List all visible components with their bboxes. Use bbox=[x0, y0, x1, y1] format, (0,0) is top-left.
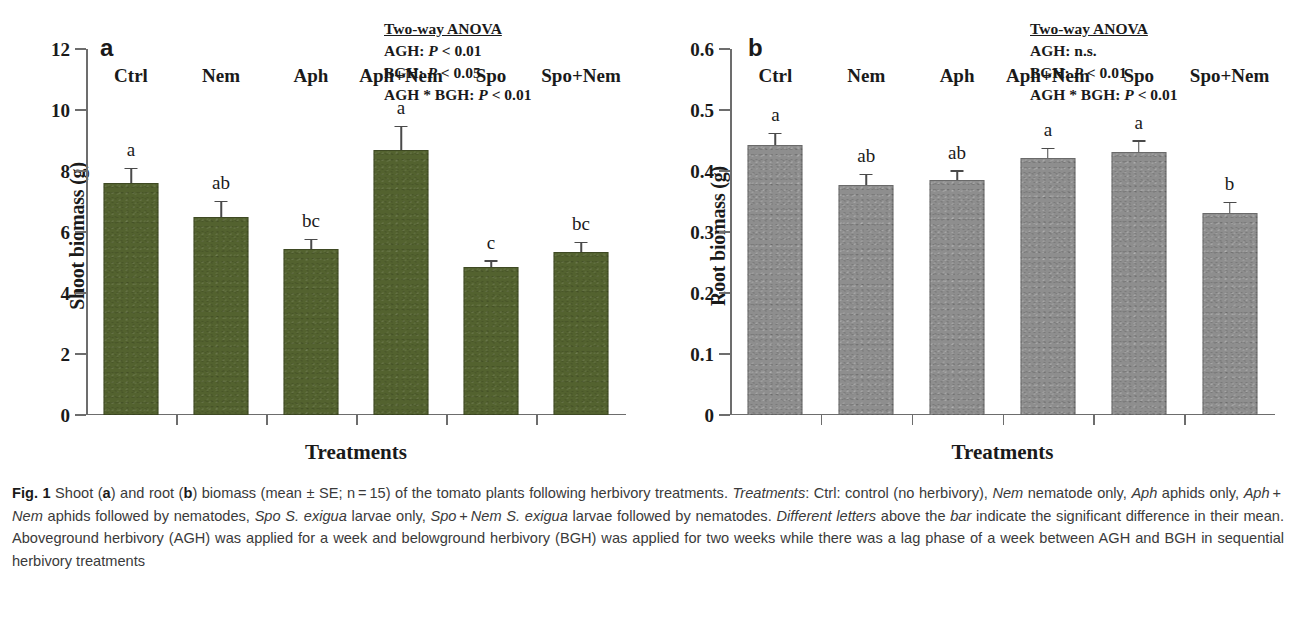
y-tick-label: 2 bbox=[61, 345, 71, 364]
x-tick-label-ctrl: Ctrl bbox=[114, 65, 148, 87]
y-tick-label: 0.1 bbox=[690, 345, 714, 364]
y-tick-mark: 0.6 bbox=[719, 48, 730, 50]
bar-slot: abNem bbox=[821, 49, 912, 415]
error-bar-cap bbox=[951, 170, 964, 172]
bar-ctrl bbox=[104, 183, 159, 415]
significance-letter: ab bbox=[948, 143, 966, 162]
x-tick-mark bbox=[266, 415, 268, 425]
x-tick-mark bbox=[1003, 415, 1005, 425]
error-bar bbox=[956, 172, 958, 181]
error-bar bbox=[220, 202, 222, 217]
error-bar-cap bbox=[485, 260, 498, 262]
y-tick-label: 6 bbox=[61, 223, 71, 242]
bar-slot: abNem bbox=[176, 49, 266, 415]
y-tick-label: 0 bbox=[705, 406, 715, 425]
bar-spo-nem bbox=[554, 252, 609, 415]
error-bar-cap bbox=[1041, 148, 1054, 150]
plot-area-a: 024681012 aCtrlabNembcAphaAph+NemcSpobcS… bbox=[86, 49, 626, 415]
bar-ctrl bbox=[748, 145, 803, 415]
y-tick-label: 4 bbox=[61, 284, 71, 303]
error-bar bbox=[310, 240, 312, 249]
bar-slot: bSpo+Nem bbox=[1184, 49, 1275, 415]
significance-letter: a bbox=[1044, 120, 1052, 139]
bar-aph bbox=[284, 249, 339, 415]
anova-header: Two-way ANOVA bbox=[1030, 18, 1177, 40]
x-tick-mark bbox=[446, 415, 448, 425]
error-bar bbox=[400, 127, 402, 149]
bar-aph bbox=[930, 180, 985, 415]
x-tick-label-aph-nem: Aph+Nem bbox=[359, 65, 443, 87]
plot-area-b: 00.10.20.30.40.50.6 aCtrlabNemabAphaAph+… bbox=[730, 49, 1275, 415]
x-tick-mark bbox=[912, 415, 914, 425]
x-tick-mark bbox=[821, 415, 823, 425]
error-bar bbox=[580, 243, 582, 252]
error-bar bbox=[130, 169, 132, 183]
x-tick-label-nem: Nem bbox=[847, 65, 885, 87]
bar-group: aCtrlabNembcAphaAph+NemcSpobcSpo+Nem bbox=[86, 49, 626, 415]
x-tick-mark bbox=[176, 415, 178, 425]
y-tick-mark: 0 bbox=[719, 414, 730, 416]
x-axis-title: Treatments bbox=[730, 440, 1275, 465]
figure-caption: Fig. 1 Shoot (a) and root (b) biomass (m… bbox=[12, 482, 1284, 572]
y-tick-label: 0.4 bbox=[690, 162, 714, 181]
bar-spo-nem bbox=[1202, 213, 1257, 415]
y-tick-label: 0.6 bbox=[690, 40, 714, 59]
error-bar-cap bbox=[125, 168, 138, 170]
bar-slot: aAph+Nem bbox=[1003, 49, 1094, 415]
bar-aph-nem bbox=[374, 150, 429, 415]
x-tick-mark bbox=[356, 415, 358, 425]
y-tick-mark: 0.1 bbox=[719, 353, 730, 355]
error-bar bbox=[490, 262, 492, 267]
x-tick-label-aph: Aph bbox=[940, 65, 975, 87]
figure-plot-area: Shoot biomass (g) a Two-way ANOVAAGH: P … bbox=[0, 0, 1295, 472]
y-tick-mark: 0 bbox=[75, 414, 86, 416]
x-tick-label-spo-nem: Spo+Nem bbox=[1190, 65, 1269, 87]
error-bar-cap bbox=[769, 133, 782, 135]
x-tick-label-spo: Spo bbox=[476, 65, 507, 87]
bar-slot: aCtrl bbox=[730, 49, 821, 415]
bar-slot: aSpo bbox=[1093, 49, 1184, 415]
x-axis-title: Treatments bbox=[86, 440, 626, 465]
error-bar-cap bbox=[395, 126, 408, 128]
error-bar-cap bbox=[1223, 202, 1236, 204]
x-tick-mark bbox=[536, 415, 538, 425]
caption-text: Shoot (a) and root (b) biomass (mean ± S… bbox=[12, 485, 1284, 569]
significance-letter: ab bbox=[857, 146, 875, 165]
error-bar bbox=[775, 134, 777, 145]
y-tick-mark: 12 bbox=[75, 48, 86, 50]
significance-letter: a bbox=[127, 140, 135, 159]
x-tick-label-spo: Spo bbox=[1123, 65, 1154, 87]
y-tick-mark: 4 bbox=[75, 292, 86, 294]
bar-slot: cSpo bbox=[446, 49, 536, 415]
y-tick-label: 0 bbox=[61, 406, 71, 425]
y-tick-mark: 0.3 bbox=[719, 231, 730, 233]
bar-slot: aAph+Nem bbox=[356, 49, 446, 415]
significance-letter: c bbox=[487, 233, 495, 252]
y-tick-label: 0.2 bbox=[690, 284, 714, 303]
bar-group: aCtrlabNemabAphaAph+NemaSpobSpo+Nem bbox=[730, 49, 1275, 415]
y-tick-mark: 10 bbox=[75, 109, 86, 111]
error-bar bbox=[1229, 203, 1231, 213]
panel-a-shoot-biomass: Shoot biomass (g) a Two-way ANOVAAGH: P … bbox=[0, 0, 647, 472]
anova-header: Two-way ANOVA bbox=[384, 18, 531, 40]
y-tick-mark: 2 bbox=[75, 353, 86, 355]
y-tick-mark: 0.2 bbox=[719, 292, 730, 294]
bar-slot: bcAph bbox=[266, 49, 356, 415]
x-tick-label-nem: Nem bbox=[202, 65, 240, 87]
significance-letter: b bbox=[1225, 174, 1235, 193]
bar-slot: aCtrl bbox=[86, 49, 176, 415]
bar-slot: bcSpo+Nem bbox=[536, 49, 626, 415]
x-tick-mark bbox=[1093, 415, 1095, 425]
y-tick-mark: 0.5 bbox=[719, 109, 730, 111]
y-tick-label: 12 bbox=[51, 40, 70, 59]
bar-slot: abAph bbox=[912, 49, 1003, 415]
error-bar bbox=[1138, 142, 1140, 152]
significance-letter: a bbox=[771, 105, 779, 124]
significance-letter: bc bbox=[572, 214, 590, 233]
error-bar-cap bbox=[305, 239, 318, 241]
bar-nem bbox=[194, 217, 249, 415]
y-tick-mark: 6 bbox=[75, 231, 86, 233]
x-tick-label-spo-nem: Spo+Nem bbox=[541, 65, 620, 87]
bar-nem bbox=[839, 185, 894, 415]
significance-letter: ab bbox=[212, 173, 230, 192]
